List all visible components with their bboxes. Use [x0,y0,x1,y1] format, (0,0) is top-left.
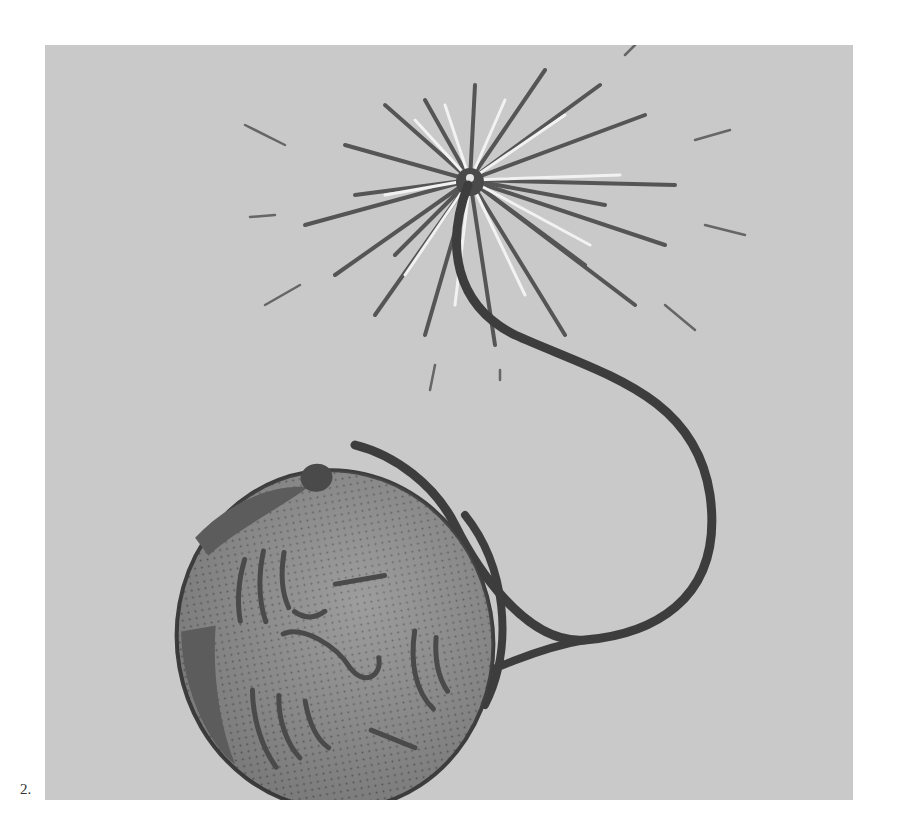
figure-caption: 2. [20,781,31,798]
illustration-plate [45,45,853,800]
bomb [149,438,520,800]
bomb-illustration [45,45,853,800]
spark-burst [245,45,745,390]
